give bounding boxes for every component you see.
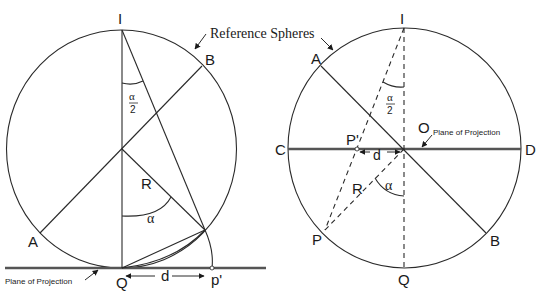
right-label-O: O — [418, 119, 430, 136]
right-label-alpha-half-den: 2 — [387, 105, 393, 116]
reference-arrow-left — [195, 34, 206, 49]
right-line-I-to-P-dashed — [325, 28, 404, 230]
right-label-alpha-half-num: α — [387, 91, 393, 103]
left-label-alpha-half-den: 2 — [130, 104, 136, 115]
left-label-alpha: α — [147, 211, 155, 226]
right-label-d: d — [373, 147, 381, 163]
right-label-A: A — [311, 50, 321, 67]
reference-arrow-right — [321, 38, 333, 50]
right-label-B: B — [490, 232, 500, 249]
left-label-d: d — [161, 267, 169, 284]
right-label-P-prime: P' — [346, 131, 359, 148]
left-p-prime-point — [210, 266, 214, 270]
right-label-Q: Q — [398, 271, 410, 288]
left-plane-label-arrow — [85, 270, 98, 280]
right-diagram — [288, 28, 521, 268]
right-plane-label-arrow — [422, 135, 432, 147]
left-label-Q: Q — [116, 274, 128, 291]
right-label-C: C — [275, 141, 286, 158]
left-label-R: R — [141, 175, 152, 192]
right-label-I: I — [400, 10, 404, 27]
left-label-alpha-half-num: α — [129, 90, 135, 102]
right-label-D: D — [525, 141, 536, 158]
left-diagram — [5, 30, 266, 280]
right-label-R: R — [352, 180, 363, 197]
right-angle-alpha-half-arc — [383, 82, 404, 87]
left-diameter-AB — [40, 66, 202, 233]
left-radius-R — [122, 149, 205, 230]
left-label-p-prime: p' — [211, 271, 222, 288]
left-label-B: B — [205, 51, 215, 68]
left-label-I: I — [118, 10, 122, 27]
left-label-A: A — [28, 233, 38, 250]
diagram-canvas: I B A R α α 2 Q d p' Plane of Projection… — [0, 0, 540, 296]
right-label-alpha: α — [385, 178, 393, 193]
right-label-P: P — [312, 231, 322, 248]
right-plane-of-projection-label: Plane of Projection — [433, 128, 500, 137]
reference-spheres-label: Reference Spheres — [210, 26, 315, 41]
left-chord-QP — [122, 230, 205, 268]
left-angle-alpha-half-arc — [122, 81, 143, 84]
left-plane-of-projection-label: Plane of Projection — [5, 277, 72, 286]
left-line-I-to-p-prime — [122, 30, 205, 230]
